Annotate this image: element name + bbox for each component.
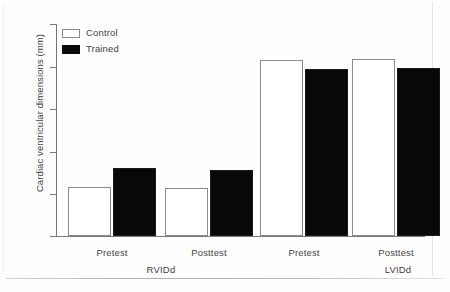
legend-label-control: Control	[86, 28, 118, 38]
y-axis-title: Cardiac ventricular dimensions (mm)	[35, 13, 45, 213]
y-tick-50	[50, 24, 57, 25]
x-category-label-rvidd-pretest: Pretest	[77, 248, 147, 258]
x-category-label-lvidd-pretest: Pretest	[269, 248, 339, 258]
bar-lvidd-posttest-control	[352, 59, 395, 236]
bar-lvidd-pretest-trained	[305, 69, 348, 237]
legend: Control Trained	[62, 26, 119, 58]
legend-item-control: Control	[62, 26, 119, 40]
y-tick-20	[50, 152, 57, 153]
x-category-label-rvidd-posttest: Posttest	[174, 248, 244, 258]
plot-area: Cardiac ventricular dimensions (mm) 50 4…	[0, 0, 450, 292]
legend-swatch-trained-icon	[62, 45, 80, 54]
legend-swatch-control-icon	[62, 29, 80, 38]
x-group-label-rvidd: RVIDd	[116, 265, 206, 275]
y-axis-line	[56, 24, 57, 237]
bar-rvidd-posttest-trained	[210, 170, 253, 236]
y-tick-0	[50, 236, 57, 237]
legend-label-trained: Trained	[86, 44, 119, 54]
y-tick-10	[50, 194, 57, 195]
figure-root: Cardiac ventricular dimensions (mm) 50 4…	[0, 0, 450, 292]
y-tick-30	[50, 109, 57, 110]
legend-item-trained: Trained	[62, 42, 119, 56]
x-category-label-lvidd-posttest: Posttest	[361, 248, 431, 258]
bar-lvidd-posttest-trained	[397, 68, 440, 236]
bar-lvidd-pretest-control	[260, 60, 303, 236]
x-group-label-lvidd: LVIDd	[353, 265, 443, 275]
x-axis-line	[56, 236, 425, 237]
bar-rvidd-pretest-control	[68, 187, 111, 236]
bar-rvidd-pretest-trained	[113, 168, 156, 236]
bar-rvidd-posttest-control	[165, 188, 208, 236]
y-tick-40	[50, 67, 57, 68]
